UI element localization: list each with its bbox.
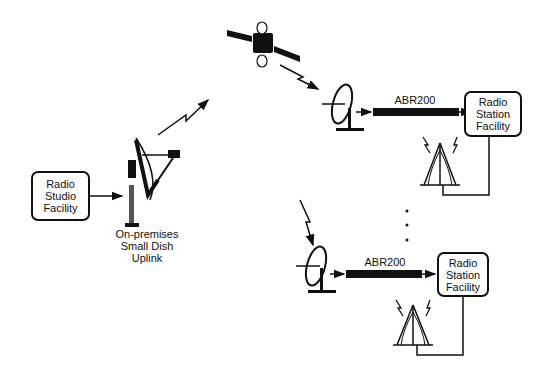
radio-station-facility-box-bottom: Radio Station Facility: [437, 252, 489, 297]
station-bottom-line-2: Station: [446, 269, 480, 281]
satellite-icon: [227, 22, 300, 67]
uplink-signal-icon: [158, 100, 208, 135]
receive-dish-icon-top: [322, 82, 364, 131]
downlink-signal-icon-bottom: [300, 200, 313, 245]
studio-line-2: Studio: [45, 190, 76, 202]
uplink-line-2: Small Dish: [112, 240, 182, 252]
uplink-dish-icon: [125, 138, 180, 227]
studio-line-1: Radio: [46, 178, 75, 190]
station-top-line-3: Facility: [476, 120, 510, 132]
receive-dish-icon-bottom: [296, 244, 336, 293]
radio-studio-facility-box: Radio Studio Facility: [31, 171, 90, 221]
radio-station-facility-box-top: Radio Station Facility: [464, 91, 522, 137]
station-bottom-line-3: Facility: [446, 281, 480, 293]
station-top-line-1: Radio: [479, 96, 508, 108]
uplink-line-3: Uplink: [112, 252, 182, 264]
antenna-tower-icon-top: [420, 137, 460, 185]
uplink-line-1: On-premises: [112, 228, 182, 240]
station-top-line-2: Station: [476, 108, 510, 120]
studio-line-3: Facility: [43, 202, 77, 214]
station-bottom-line-1: Radio: [449, 257, 478, 269]
abr200-device-bottom: [346, 270, 422, 278]
abr200-device-top: [373, 108, 459, 116]
abr200-label-bottom: ABR200: [355, 256, 415, 268]
uplink-caption: On-premises Small Dish Uplink: [112, 228, 182, 264]
antenna-tower-icon-bottom: [393, 300, 433, 345]
downlink-signal-icon-top: [280, 65, 318, 89]
abr200-label-top: ABR200: [385, 94, 445, 106]
